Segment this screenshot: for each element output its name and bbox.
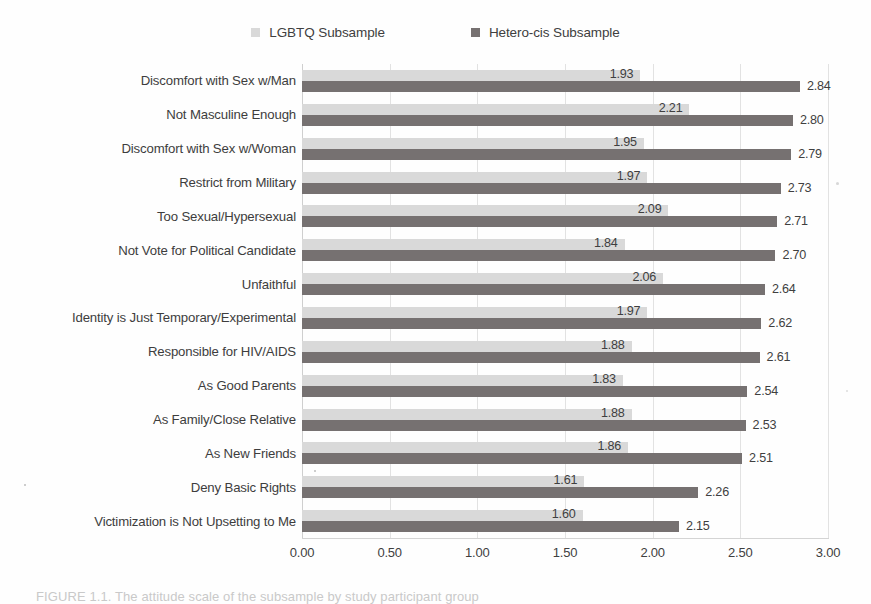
category-label: Deny Basic Rights	[0, 470, 296, 504]
plot-area: 1.932.842.212.801.952.791.972.732.092.71…	[302, 64, 828, 538]
bar-value-lgbtq: 1.83	[592, 372, 623, 386]
x-tick-label: 2.50	[728, 545, 753, 560]
bar-value-hetero-cis: 2.84	[800, 79, 831, 93]
bar-lgbtq[interactable]	[302, 239, 625, 250]
bar-lgbtq[interactable]	[302, 138, 644, 149]
legend-entry-0[interactable]: LGBTQ Subsample	[251, 25, 385, 40]
legend-swatch-hetero-cis	[471, 28, 480, 37]
x-tick-label: 0.50	[377, 545, 402, 560]
bar-value-lgbtq: 1.93	[610, 67, 641, 81]
scan-speck	[314, 470, 316, 472]
scan-speck	[846, 390, 848, 392]
bar-row: 1.612.26	[302, 470, 828, 504]
page-caption-strip: FIGURE 1.1. The attitude scale of the su…	[0, 592, 871, 604]
bar-value-lgbtq: 1.88	[601, 406, 632, 420]
bar-value-lgbtq: 2.06	[632, 270, 663, 284]
x-axis-line	[302, 538, 829, 539]
bar-row: 1.882.53	[302, 403, 828, 437]
x-tick-label: 1.50	[553, 545, 578, 560]
bar-value-lgbtq: 1.60	[552, 507, 583, 521]
bar-hetero-cis[interactable]	[302, 81, 800, 92]
bar-value-lgbtq: 1.97	[617, 169, 648, 183]
bar-value-lgbtq: 1.84	[594, 236, 625, 250]
gridline-3.00	[828, 64, 829, 538]
bar-hetero-cis[interactable]	[302, 453, 742, 464]
bar-value-hetero-cis: 2.73	[781, 181, 812, 195]
bar-value-lgbtq: 1.61	[554, 473, 585, 487]
category-label: Identity is Just Temporary/Experimental	[0, 301, 296, 335]
chart-legend: LGBTQ SubsampleHetero-cis Subsample	[0, 20, 871, 44]
category-label: Victimization is Not Upsetting to Me	[0, 504, 296, 538]
legend-label-0: LGBTQ Subsample	[269, 25, 385, 40]
figure-caption: FIGURE 1.1. The attitude scale of the su…	[36, 592, 479, 604]
x-tick-label: 0.00	[290, 545, 315, 560]
bar-hetero-cis[interactable]	[302, 149, 791, 160]
bar-hetero-cis[interactable]	[302, 284, 765, 295]
bar-value-lgbtq: 1.97	[617, 304, 648, 318]
bar-lgbtq[interactable]	[302, 205, 668, 216]
category-label: Unfaithful	[0, 267, 296, 301]
scan-speck	[24, 484, 26, 486]
bar-value-hetero-cis: 2.64	[765, 282, 796, 296]
bar-row: 1.882.61	[302, 335, 828, 369]
bar-row: 1.952.79	[302, 132, 828, 166]
bar-lgbtq[interactable]	[302, 442, 628, 453]
bar-value-hetero-cis: 2.61	[760, 350, 791, 364]
category-label: Not Masculine Enough	[0, 98, 296, 132]
category-label: As New Friends	[0, 436, 296, 470]
bar-hetero-cis[interactable]	[302, 352, 760, 363]
bar-hetero-cis[interactable]	[302, 318, 761, 329]
bar-row: 1.602.15	[302, 504, 828, 538]
legend-label-1: Hetero-cis Subsample	[489, 25, 620, 40]
legend-swatch-lgbtq	[251, 28, 260, 37]
bar-value-hetero-cis: 2.71	[777, 214, 808, 228]
bar-value-hetero-cis: 2.53	[746, 418, 777, 432]
bar-lgbtq[interactable]	[302, 510, 583, 521]
bar-lgbtq[interactable]	[302, 307, 647, 318]
bar-value-lgbtq: 1.95	[613, 135, 644, 149]
category-axis-labels: Discomfort with Sex w/ManNot Masculine E…	[0, 64, 296, 538]
bar-lgbtq[interactable]	[302, 375, 623, 386]
bar-row: 1.862.51	[302, 436, 828, 470]
category-label: As Family/Close Relative	[0, 403, 296, 437]
category-label: Responsible for HIV/AIDS	[0, 335, 296, 369]
bar-hetero-cis[interactable]	[302, 386, 747, 397]
bar-value-lgbtq: 1.86	[597, 439, 628, 453]
bar-value-hetero-cis: 2.26	[698, 485, 729, 499]
x-tick-label: 2.00	[640, 545, 665, 560]
bar-hetero-cis[interactable]	[302, 250, 775, 261]
bar-hetero-cis[interactable]	[302, 487, 698, 498]
bar-row: 1.842.70	[302, 233, 828, 267]
bar-lgbtq[interactable]	[302, 273, 663, 284]
scan-speck	[836, 182, 839, 185]
bar-hetero-cis[interactable]	[302, 521, 679, 532]
bar-row: 2.092.71	[302, 199, 828, 233]
x-axis-tick-labels: 0.000.501.001.502.002.503.00	[302, 545, 828, 565]
bar-value-lgbtq: 2.21	[659, 101, 690, 115]
bar-lgbtq[interactable]	[302, 409, 632, 420]
bar-row: 2.212.80	[302, 98, 828, 132]
bar-lgbtq[interactable]	[302, 476, 584, 487]
bar-lgbtq[interactable]	[302, 104, 689, 115]
bar-value-hetero-cis: 2.79	[791, 147, 822, 161]
bar-row: 1.972.62	[302, 301, 828, 335]
bar-hetero-cis[interactable]	[302, 216, 777, 227]
bar-value-hetero-cis: 2.15	[679, 519, 710, 533]
legend-entry-1[interactable]: Hetero-cis Subsample	[471, 25, 620, 40]
bar-row: 2.062.64	[302, 267, 828, 301]
category-label: Restrict from Military	[0, 166, 296, 200]
bar-value-hetero-cis: 2.70	[775, 248, 806, 262]
figure-container: LGBTQ SubsampleHetero-cis Subsample 1.93…	[0, 0, 871, 604]
bar-value-hetero-cis: 2.54	[747, 384, 778, 398]
bar-hetero-cis[interactable]	[302, 183, 781, 194]
bar-hetero-cis[interactable]	[302, 420, 746, 431]
bar-lgbtq[interactable]	[302, 172, 647, 183]
bar-lgbtq[interactable]	[302, 341, 632, 352]
x-tick-label: 1.00	[465, 545, 490, 560]
bar-row: 1.932.84	[302, 64, 828, 98]
bar-hetero-cis[interactable]	[302, 115, 793, 126]
category-label: Too Sexual/Hypersexual	[0, 199, 296, 233]
bar-value-hetero-cis: 2.51	[742, 451, 773, 465]
bar-row: 1.972.73	[302, 166, 828, 200]
bar-lgbtq[interactable]	[302, 70, 640, 81]
